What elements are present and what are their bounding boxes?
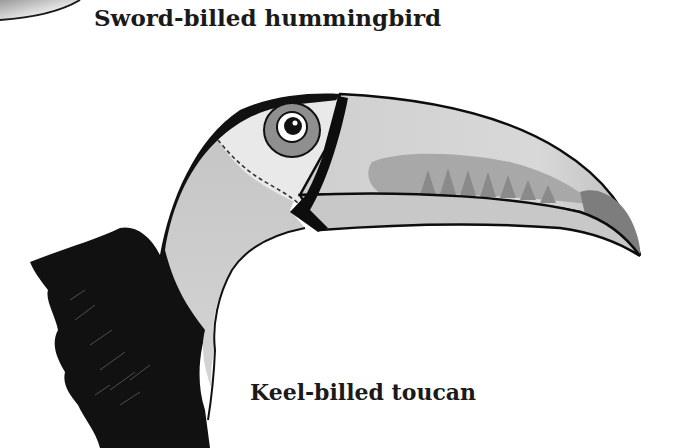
toucan-eye [264,103,320,157]
hummingbird-label: Sword-billed hummingbird [94,4,441,31]
toucan-label: Keel-billed toucan [250,379,476,405]
hummingbird-bill-fragment [0,0,80,20]
toucan-bill [290,94,640,256]
illustration: Sword-billed hummingbird Keel-billed tou… [0,0,682,448]
